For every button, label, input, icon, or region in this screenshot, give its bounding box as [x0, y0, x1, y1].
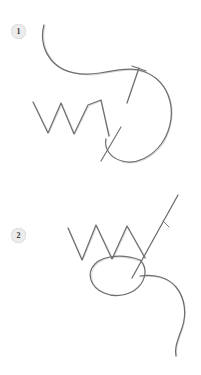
thread-tail-shade [141, 276, 185, 356]
needle-tail-path [101, 127, 121, 161]
thread-loop-path [90, 256, 145, 295]
needle-eye-path [163, 221, 169, 227]
thread-curve-path [42, 25, 171, 162]
step-1-drawing [0, 0, 201, 188]
thread-tail-path [140, 275, 185, 356]
zigzag-stitch-path [33, 100, 109, 136]
step-2-panel: 2 [0, 188, 201, 375]
step-2-drawing [0, 188, 201, 375]
zigzag-stitch-path [68, 225, 145, 260]
thread-curve-shade [44, 26, 173, 163]
step-1-illustration [0, 0, 201, 188]
zigzag-stitch-shade [69, 226, 146, 260]
diagram-page: 1 [0, 0, 201, 375]
needle-shaft-path [127, 68, 139, 103]
step-1-panel: 1 [0, 0, 201, 188]
needle-shaft-path [132, 195, 178, 278]
step-2-illustration [0, 188, 201, 375]
